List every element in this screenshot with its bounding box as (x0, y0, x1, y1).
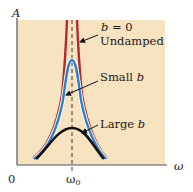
label-undamped: Undamped (100, 34, 164, 48)
label-b-equals-zero: b = 0 (101, 20, 133, 34)
x-axis-label: ω (174, 159, 184, 173)
omega0-tick-label: ω0 (66, 172, 80, 187)
label-large-b: Large b (100, 117, 145, 131)
resonance-chart: A ω 0 ω0 b = 0 Undamped Small b Large b (0, 0, 193, 192)
y-axis-label: A (11, 6, 20, 20)
origin-label: 0 (8, 172, 15, 186)
label-small-b: Small b (100, 70, 144, 84)
